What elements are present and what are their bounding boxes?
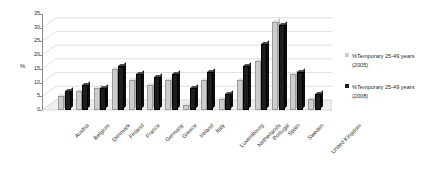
bar-group <box>290 14 308 110</box>
bar <box>82 85 88 110</box>
y-axis-title: % <box>20 63 25 69</box>
bar-side <box>106 84 108 108</box>
bar-group <box>219 14 237 110</box>
bar-side <box>142 70 144 108</box>
bar <box>207 72 213 110</box>
bar <box>136 74 142 110</box>
bar-face <box>243 66 249 110</box>
bar-top <box>315 92 323 94</box>
bar-face <box>172 74 178 110</box>
bar-group <box>201 14 219 110</box>
bar-face <box>82 85 88 110</box>
bar-group <box>255 14 273 110</box>
bar-face <box>183 105 189 110</box>
bar-face <box>190 88 196 110</box>
bar <box>118 66 124 110</box>
chart-legend: %Temporary 25-49 years (2005) %Temporary… <box>345 52 425 115</box>
bar <box>76 91 82 110</box>
bar-side <box>249 62 251 108</box>
legend-swatch-2005 <box>345 53 349 57</box>
bar <box>154 77 160 110</box>
x-axis-label: Italy <box>215 123 226 134</box>
bar-group <box>183 14 201 110</box>
bar-face <box>219 99 225 110</box>
bar-side <box>88 81 90 108</box>
bar <box>183 105 189 110</box>
bar-face <box>297 72 303 110</box>
bar <box>165 80 171 110</box>
y-axis-tick-label: 15 <box>26 66 40 71</box>
bar-face <box>225 94 231 110</box>
bar <box>255 61 261 110</box>
legend-label-2005: %Temporary 25-49 years (2005) <box>352 52 425 69</box>
y-axis-tick-label: 0 <box>26 107 40 112</box>
bar <box>94 88 100 110</box>
bar <box>290 74 296 110</box>
bar-face <box>136 74 142 110</box>
bar-face <box>279 25 285 110</box>
bar-face <box>261 44 267 110</box>
bar-face <box>112 69 118 110</box>
bar-face <box>255 61 261 110</box>
bar-side <box>285 21 287 108</box>
bar <box>225 94 231 110</box>
bar-face <box>207 72 213 110</box>
bar-group <box>272 14 290 110</box>
bar-face <box>272 22 278 110</box>
bar <box>297 72 303 110</box>
y-axis-tick-label: 35 <box>26 11 40 16</box>
bar-chart: % 05101520253035 AustriaBelgiumDenmarkFi… <box>0 0 427 179</box>
bar-side <box>267 40 269 108</box>
bar <box>243 66 249 110</box>
bar-group <box>94 14 112 110</box>
legend-swatch-2008 <box>345 84 349 88</box>
bar <box>100 88 106 110</box>
bar <box>172 74 178 110</box>
bar-face <box>315 94 321 110</box>
y-axis-tick-label: 10 <box>26 80 40 85</box>
bar-face <box>100 88 106 110</box>
bar-side <box>178 70 180 108</box>
y-axis-tick-label: 5 <box>26 94 40 99</box>
x-axis-label: United Kingdom <box>331 123 363 155</box>
bar-face <box>129 80 135 110</box>
bar <box>129 80 135 110</box>
bar-group <box>308 14 326 110</box>
bar-group <box>58 14 76 110</box>
bar-face <box>201 80 207 110</box>
bar <box>261 44 267 110</box>
x-axis-label: Ireland <box>199 123 215 139</box>
legend-label-2008: %Temporary 25-49 years (2008) <box>352 83 425 100</box>
x-axis-label: France <box>146 123 162 139</box>
bar <box>219 99 225 110</box>
y-axis-tick-label: 30 <box>26 25 40 30</box>
bar-face <box>58 96 64 110</box>
bar-group <box>76 14 94 110</box>
bar-group <box>112 14 130 110</box>
bar-face <box>147 85 153 110</box>
bar-face <box>154 77 160 110</box>
bar <box>65 91 71 110</box>
bar-group <box>147 14 165 110</box>
y-axis-tick-label: 20 <box>26 52 40 57</box>
x-axis-label: Austria <box>74 123 90 139</box>
legend-item: %Temporary 25-49 years (2005) <box>345 52 425 69</box>
x-axis-label: Sweden <box>307 123 325 141</box>
bar-group <box>165 14 183 110</box>
bar-face <box>65 91 71 110</box>
bar <box>58 96 64 110</box>
y-axis-tick-label: 25 <box>26 39 40 44</box>
bar-side <box>160 73 162 108</box>
bar <box>308 99 314 110</box>
plot-area: 05101520253035 <box>42 14 332 120</box>
bar <box>272 22 278 110</box>
bar-face <box>237 80 243 110</box>
bar-group <box>129 14 147 110</box>
bar-face <box>165 80 171 110</box>
bar <box>201 80 207 110</box>
bars-layer <box>42 14 332 120</box>
bar-face <box>118 66 124 110</box>
bar-face <box>290 74 296 110</box>
bar <box>237 80 243 110</box>
bar-face <box>308 99 314 110</box>
